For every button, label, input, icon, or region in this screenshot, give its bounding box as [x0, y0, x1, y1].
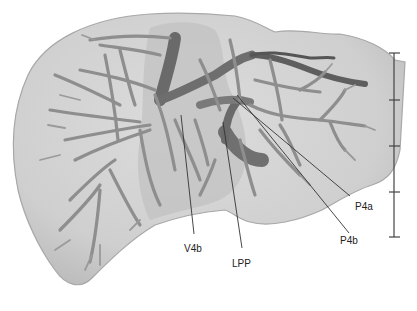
label-v4b: V4b [184, 244, 202, 254]
liver-vessel-rendering [0, 0, 417, 311]
label-p4b: P4b [340, 236, 358, 246]
label-lpp: LPP [232, 259, 251, 269]
label-p4a: P4a [355, 202, 373, 212]
